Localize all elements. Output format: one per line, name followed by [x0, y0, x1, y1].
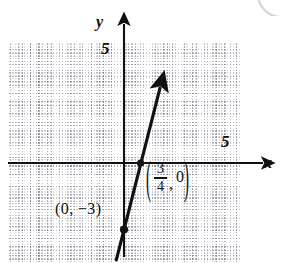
plot-svg [0, 0, 283, 263]
fraction-numerator: 3 [155, 162, 166, 176]
coordinate-second-value: 0 [176, 169, 184, 186]
x-axis-label: x [264, 155, 272, 171]
graph-figure: y x 5 5 (0, −3) ( 3 4 , 0 ) [0, 0, 283, 263]
fraction-three-fourths: 3 4 [154, 162, 167, 194]
y-intercept-point [120, 226, 128, 234]
y-intercept-label: (0, −3) [55, 201, 101, 217]
x-intercept-label: ( 3 4 , 0 ) [146, 162, 189, 194]
x-intercept-point [137, 159, 144, 166]
fraction-denominator: 4 [155, 180, 166, 194]
y-axis-label: y [96, 14, 103, 30]
x-axis-tick-5: 5 [221, 133, 230, 150]
coordinate-comma: , [169, 176, 173, 194]
paren-close-icon: ) [184, 157, 189, 203]
y-axis-tick-5: 5 [101, 40, 110, 57]
paren-open-icon: ( [146, 157, 151, 203]
scan-artifact-mark [251, 0, 281, 16]
